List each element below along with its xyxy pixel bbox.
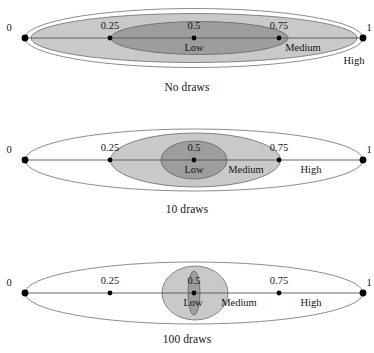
- axis-tick-label-1: 1: [366, 277, 371, 288]
- axis-tick-label-0-75: 0.75: [270, 275, 288, 286]
- panel-caption-hundred-draws: 100 draws: [0, 333, 374, 345]
- axis-tick-dot-0-75: [277, 291, 282, 296]
- uncertainty-ellipse-figure: 00.250.50.751LowMediumHighNo draws00.250…: [0, 0, 374, 353]
- zone-label-medium: Medium: [221, 297, 257, 308]
- zone-label-low: Low: [183, 297, 202, 308]
- axis-tick-label-0: 0: [6, 277, 11, 288]
- axis-tick-dot-1: [360, 290, 367, 297]
- zone-label-high: High: [301, 297, 322, 308]
- panel-hundred-draws: 00.250.50.751LowMediumHigh100 draws: [0, 0, 374, 353]
- axis-tick-dot-0: [22, 290, 29, 297]
- axis-tick-label-0-5: 0.5: [187, 275, 200, 286]
- axis-tick-dot-0-25: [108, 291, 113, 296]
- axis-tick-dot-0-5: [192, 291, 197, 296]
- axis-tick-label-0-25: 0.25: [101, 275, 119, 286]
